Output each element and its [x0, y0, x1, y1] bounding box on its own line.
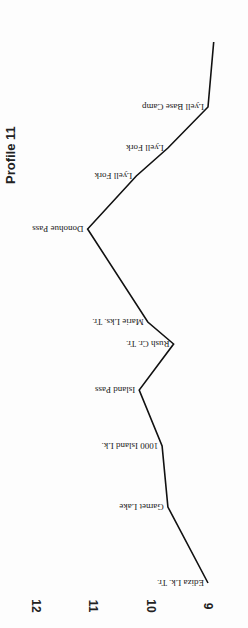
elevation-tick-label: 12 — [29, 599, 43, 613]
elevation-tick-label: 11 — [86, 600, 100, 613]
chart-title: Profile 11 — [3, 115, 19, 195]
waypoint-label: Marie Lks. Tr. — [92, 317, 144, 327]
plot-area: 9101112 Ediza Lk. Tr.Garnet Lake1000 Isl… — [0, 0, 248, 628]
waypoint-label: Garnet Lake — [119, 502, 164, 512]
waypoint-labels: Ediza Lk. Tr.Garnet Lake1000 Island Lk.I… — [32, 102, 204, 588]
elevation-axis-ticks: 9101112 — [29, 599, 215, 613]
waypoint-label: Donohue Pass — [32, 224, 84, 234]
waypoint-label: Lyell Fork — [126, 143, 164, 153]
elevation-tick-label: 10 — [144, 599, 158, 613]
waypoint-label: Rush Cr. Tr. — [126, 339, 170, 349]
waypoint-label: Island Pass — [94, 385, 135, 395]
elevation-tick-label: 9 — [201, 603, 215, 610]
elevation-profile-line — [88, 42, 214, 583]
waypoint-label: Lyell Base Camp — [142, 102, 204, 112]
waypoint-label: 1000 Island Lk. — [101, 441, 158, 451]
waypoint-label: Ediza Lk. Tr. — [157, 578, 204, 588]
waypoint-label: Lyell Fork — [94, 171, 132, 181]
elevation-profile-chart: Profile 11 9101112 Ediza Lk. Tr.Garnet L… — [0, 0, 248, 628]
